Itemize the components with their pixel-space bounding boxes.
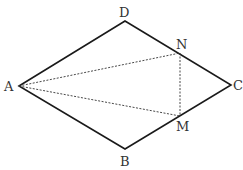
label-C: C	[233, 78, 243, 93]
label-N: N	[176, 37, 187, 52]
segment-AN	[19, 53, 180, 86]
rhombus-diagram: A D C B N M	[0, 0, 243, 170]
label-M: M	[176, 119, 189, 134]
rhombus-ABCD	[19, 21, 231, 149]
label-A: A	[3, 79, 14, 94]
label-D: D	[119, 5, 129, 20]
label-B: B	[120, 154, 130, 169]
